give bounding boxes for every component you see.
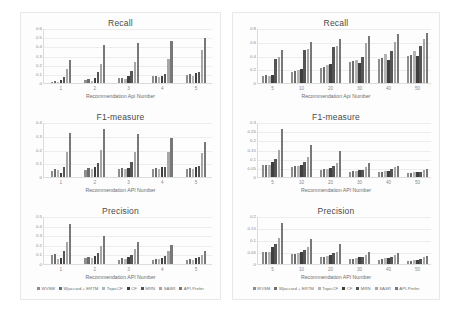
y-axis-tick-label: 0.2 — [36, 63, 42, 67]
bar — [271, 75, 273, 83]
legend-label: WVSM — [257, 286, 270, 291]
bar — [268, 252, 270, 264]
legend-item[interactable]: CF — [342, 286, 352, 291]
bar — [320, 170, 322, 177]
legend-item[interactable]: TopicCF — [102, 286, 122, 291]
bar-group — [179, 217, 213, 264]
figure-root: Recall00.10.20.30.40.50.612345Recommenda… — [0, 0, 460, 333]
legend-item[interactable]: API-Prefer — [395, 286, 420, 291]
legend-item[interactable]: WVSM — [37, 286, 55, 291]
bar — [336, 46, 338, 83]
y-axis-tick-label: 0.4 — [36, 224, 42, 228]
bar — [339, 151, 341, 177]
x-axis-tick-label: 3 — [127, 86, 130, 91]
bar — [352, 171, 354, 177]
bar — [307, 247, 309, 264]
bar — [198, 257, 200, 264]
x-axis-tick-label: 40 — [386, 86, 391, 91]
bar — [161, 258, 163, 264]
bar — [410, 173, 412, 177]
bar — [291, 167, 293, 177]
bar — [416, 56, 418, 83]
bar — [164, 167, 166, 177]
bar — [361, 57, 363, 83]
x-axis-tick-label: 20 — [328, 180, 333, 185]
legend-item[interactable]: SASR — [159, 286, 175, 291]
legend-swatch-icon — [375, 287, 378, 290]
bar — [416, 260, 418, 264]
bar — [368, 163, 370, 177]
legend-item[interactable]: API-Prefer — [179, 286, 204, 291]
bar — [198, 166, 200, 177]
bar — [54, 169, 56, 177]
bar-group — [258, 123, 287, 177]
plot-area: 00.20.40.60.851020304050 — [257, 29, 431, 84]
bar — [152, 169, 154, 177]
x-axis-tick-label: 10 — [299, 180, 304, 185]
bar-group — [44, 123, 78, 177]
bar-group — [112, 123, 146, 177]
bar-group — [316, 217, 345, 264]
bar — [69, 224, 71, 264]
bar — [329, 168, 331, 177]
bar — [378, 59, 380, 83]
legend-item[interactable]: Wjaccard + ERTM — [274, 286, 313, 291]
legend-item[interactable]: TopicCF — [318, 286, 338, 291]
bar — [268, 76, 270, 83]
legend-label: CF — [347, 286, 353, 291]
bar — [189, 168, 191, 177]
bar — [281, 50, 283, 83]
bar — [323, 67, 325, 84]
bar — [204, 38, 206, 83]
chart-right-recall: Recall00.20.40.60.851020304050Recommenda… — [233, 17, 439, 99]
legend-item[interactable]: MRN — [141, 286, 155, 291]
bar — [91, 169, 93, 177]
bar — [281, 129, 283, 177]
bar — [407, 173, 409, 177]
x-axis-label: Recommendation API Number — [233, 187, 439, 193]
x-axis-label: Recommendation API Number — [233, 274, 439, 280]
y-axis-tick-label: 0.5 — [36, 36, 42, 40]
legend-swatch-icon — [253, 287, 256, 290]
bar-group — [287, 29, 316, 83]
bar — [170, 245, 172, 264]
legend-label: API-Prefer — [399, 286, 419, 291]
bar — [87, 79, 89, 83]
legend-item[interactable]: CF — [127, 286, 137, 291]
x-axis-tick-label: 50 — [415, 267, 420, 272]
legend-item[interactable]: SASR — [375, 286, 391, 291]
bar — [426, 33, 428, 83]
legend-item[interactable]: Wjaccard + ERTM — [59, 286, 98, 291]
bar — [167, 59, 169, 83]
bar — [426, 169, 428, 177]
bar-group — [258, 217, 287, 264]
y-axis-tick-label: 0.6 — [250, 41, 256, 45]
bar — [381, 58, 383, 83]
bar — [381, 259, 383, 264]
bar — [271, 247, 273, 264]
legend-item[interactable]: MRN — [356, 286, 370, 291]
legend-item[interactable]: WVSM — [253, 286, 271, 291]
bar — [390, 257, 392, 264]
bar-group — [316, 29, 345, 83]
bar-group — [179, 29, 213, 83]
bar — [394, 255, 396, 264]
bar — [100, 150, 102, 177]
plot-area-wrapper: 00.10.20.30.40.50.612345 — [21, 29, 220, 93]
bar — [63, 167, 65, 177]
bar — [358, 257, 360, 264]
bar — [423, 170, 425, 177]
y-axis-tick-label: 0 — [254, 82, 256, 86]
bar — [390, 51, 392, 83]
bar-group — [403, 123, 432, 177]
bar — [51, 171, 53, 177]
bar — [97, 72, 99, 83]
x-axis-tick-label: 3 — [127, 180, 130, 185]
bar — [274, 59, 276, 83]
x-axis-tick-label: 30 — [357, 86, 362, 91]
bar — [155, 259, 157, 264]
y-axis-tick-label: 0.1 — [36, 253, 42, 257]
bar — [57, 259, 59, 264]
legend-swatch-icon — [37, 287, 40, 290]
plot-area-wrapper: 00.050.10.150.251020304050 — [233, 217, 439, 274]
